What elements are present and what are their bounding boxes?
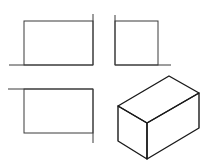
isometric-right-face [147, 93, 199, 159]
side-view-rectangle [115, 21, 158, 65]
top-view-rectangle [24, 89, 93, 133]
front-view [9, 14, 93, 65]
side-view [115, 15, 171, 65]
isometric-left-face [118, 106, 147, 159]
top-view [8, 89, 93, 143]
isometric-box [118, 76, 199, 159]
front-view-rectangle [24, 21, 93, 65]
three-view-drawing [0, 0, 207, 166]
